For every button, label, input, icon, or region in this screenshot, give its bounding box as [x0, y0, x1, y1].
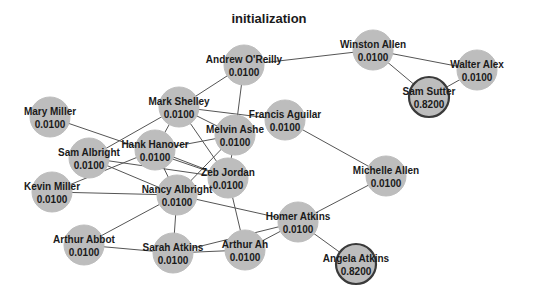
node-value-label: 0.0100: [230, 252, 261, 263]
node-name-label: Arthur Abbot: [53, 234, 116, 245]
node-michelle_allen[interactable]: Michelle Allen0.0100: [353, 156, 419, 196]
node-name-label: Angela Atkins: [323, 253, 390, 264]
node-arthur_abbot[interactable]: Arthur Abbot0.0100: [53, 225, 116, 265]
node-circle[interactable]: [278, 202, 318, 242]
node-circle[interactable]: [225, 230, 265, 270]
node-circle[interactable]: [157, 175, 197, 215]
node-name-label: Sam Sutter: [403, 86, 456, 97]
node-andrew_oreilly[interactable]: Andrew O'Reilly0.0100: [206, 45, 283, 85]
node-angela_atkins[interactable]: Angela Atkins0.8200: [323, 244, 390, 284]
node-value-label: 0.0100: [69, 247, 100, 258]
node-value-label: 0.8200: [341, 266, 372, 277]
node-name-label: Homer Atkins: [266, 211, 331, 222]
node-value-label: 0.0100: [164, 109, 195, 120]
node-circle[interactable]: [336, 244, 376, 284]
node-sam_albright[interactable]: Sam Albright0.0100: [58, 138, 121, 178]
node-name-label: Arthur Ah: [222, 239, 268, 250]
node-mary_miller[interactable]: Mary Miller0.0100: [24, 97, 76, 137]
node-value-label: 0.0100: [140, 152, 171, 163]
node-name-label: Mary Miller: [24, 106, 76, 117]
node-circle[interactable]: [32, 172, 72, 212]
node-name-label: Winston Allen: [340, 39, 406, 50]
network-graph-canvas: initialization Andrew O'Reilly0.0100Wins…: [0, 0, 538, 300]
node-circle[interactable]: [64, 225, 104, 265]
node-circle[interactable]: [353, 30, 393, 70]
node-circle[interactable]: [69, 138, 109, 178]
node-circle[interactable]: [208, 158, 248, 198]
node-winston_allen[interactable]: Winston Allen0.0100: [340, 30, 406, 70]
node-layer: Andrew O'Reilly0.0100Winston Allen0.0100…: [24, 30, 504, 284]
node-circle[interactable]: [135, 130, 175, 170]
node-name-label: Melvin Ashe: [206, 124, 264, 135]
node-circle[interactable]: [224, 45, 264, 85]
node-circle[interactable]: [457, 50, 497, 90]
node-name-label: Nancy Albright: [142, 184, 213, 195]
node-circle[interactable]: [265, 100, 305, 140]
node-circle[interactable]: [215, 115, 255, 155]
node-walter_alex[interactable]: Walter Alex0.0100: [450, 50, 504, 90]
node-circle[interactable]: [30, 97, 70, 137]
node-value-label: 0.0100: [37, 194, 68, 205]
graph-svg: Andrew O'Reilly0.0100Winston Allen0.0100…: [0, 0, 538, 300]
node-sarah_atkins[interactable]: Sarah Atkins0.0100: [143, 233, 204, 273]
node-homer_atkins[interactable]: Homer Atkins0.0100: [266, 202, 331, 242]
node-value-label: 0.0100: [220, 137, 251, 148]
node-name-label: Zeb Jordan: [201, 167, 255, 178]
node-kevin_miller[interactable]: Kevin Miller0.0100: [24, 172, 80, 212]
node-circle[interactable]: [366, 156, 406, 196]
node-value-label: 0.0100: [371, 178, 402, 189]
node-sam_sutter[interactable]: Sam Sutter0.8200: [403, 77, 456, 117]
node-name-label: Francis Aguilar: [249, 109, 322, 120]
node-circle[interactable]: [159, 87, 199, 127]
node-name-label: Walter Alex: [450, 59, 504, 70]
node-arthur_ah[interactable]: Arthur Ah0.0100: [222, 230, 268, 270]
node-name-label: Sam Albright: [58, 147, 121, 158]
node-circle[interactable]: [153, 233, 193, 273]
node-name-label: Mark Shelley: [148, 96, 210, 107]
node-value-label: 0.0100: [462, 72, 493, 83]
node-value-label: 0.0100: [74, 160, 105, 171]
node-value-label: 0.0100: [229, 67, 260, 78]
node-value-label: 0.8200: [414, 99, 445, 110]
node-melvin_ashe[interactable]: Melvin Ashe0.0100: [206, 115, 264, 155]
node-value-label: 0.0100: [270, 122, 301, 133]
node-value-label: 0.0100: [35, 119, 66, 130]
node-value-label: 0.0100: [213, 180, 244, 191]
node-name-label: Michelle Allen: [353, 165, 419, 176]
node-circle[interactable]: [409, 77, 449, 117]
node-name-label: Kevin Miller: [24, 181, 80, 192]
node-name-label: Sarah Atkins: [143, 242, 204, 253]
node-name-label: Hank Hanover: [121, 139, 188, 150]
node-nancy_albright[interactable]: Nancy Albright0.0100: [142, 175, 213, 215]
node-value-label: 0.0100: [283, 224, 314, 235]
node-value-label: 0.0100: [158, 255, 189, 266]
node-value-label: 0.0100: [162, 197, 193, 208]
node-value-label: 0.0100: [358, 52, 389, 63]
node-name-label: Andrew O'Reilly: [206, 54, 283, 65]
